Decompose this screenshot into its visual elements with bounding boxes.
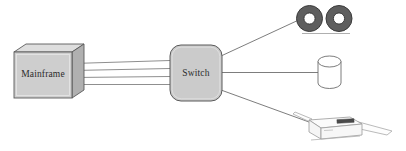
tape-reel-right-hub [333,13,344,24]
diagram-svg: Mainframe Switch [0,0,406,151]
disk-storage-top [318,56,341,67]
tape-reel-left-hub [304,13,315,24]
printer-control-panel [337,119,354,124]
link-mainframe-switch-bus [73,61,170,85]
switch-label: Switch [182,68,209,78]
node-printer[interactable] [293,112,392,140]
node-disk-storage[interactable] [318,56,341,89]
link-switch-tape-drive [221,18,303,56]
printer-slot [324,130,333,131]
node-switch[interactable]: Switch [170,45,222,101]
mainframe-label: Mainframe [21,69,65,79]
node-mainframe[interactable]: Mainframe [14,44,84,98]
mainframe-side-face [72,44,84,98]
network-diagram: Mainframe Switch [0,0,406,151]
node-tape-drive[interactable] [297,6,353,34]
link-switch-printer [221,90,309,122]
